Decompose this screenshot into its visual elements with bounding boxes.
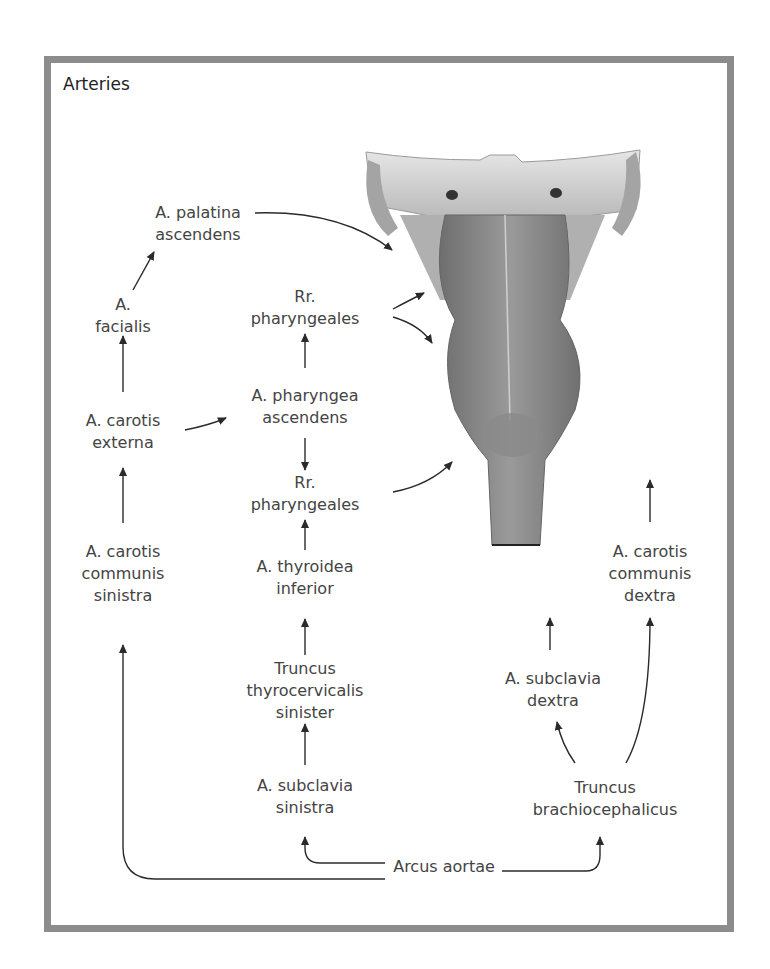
label-a-pharyngea-ascendens: A. pharyngea ascendens bbox=[252, 385, 359, 429]
label-rr-pharyngeales-lower: Rr. pharyngeales bbox=[251, 472, 360, 516]
arrow-palatina-to-pharynx bbox=[255, 213, 392, 250]
arrow-externa-to-pharyngea bbox=[185, 418, 226, 430]
label-line: sinistra bbox=[257, 797, 353, 819]
arrow-rr-upper-to-pharynx-a bbox=[393, 293, 424, 309]
arrow-brachio-to-subclavia-dex bbox=[557, 722, 575, 763]
label-line: facialis bbox=[95, 316, 151, 338]
label-line: A. carotis bbox=[609, 541, 692, 563]
label-a-subclavia-sinistra: A. subclavia sinistra bbox=[257, 775, 353, 819]
label-line: Truncus bbox=[247, 658, 364, 680]
arrow-rr-upper-to-pharynx-b bbox=[393, 317, 432, 343]
label-line: brachiocephalicus bbox=[533, 799, 678, 821]
label-line: Rr. bbox=[251, 472, 360, 494]
label-truncus-brachiocephalicus: Truncus brachiocephalicus bbox=[533, 777, 678, 821]
label-line: A. pharyngea bbox=[252, 385, 359, 407]
label-a-facialis: A. facialis bbox=[95, 294, 151, 338]
label-line: A. carotis bbox=[82, 541, 165, 563]
arrow-aortae-to-brachio bbox=[502, 837, 600, 871]
label-line: Arcus aortae bbox=[393, 856, 495, 878]
label-line: pharyngeales bbox=[251, 308, 360, 330]
label-a-carotis-communis-dextra: A. carotis communis dextra bbox=[609, 541, 692, 607]
label-line: A. carotis bbox=[86, 410, 161, 432]
label-line: sinister bbox=[247, 702, 364, 724]
label-line: pharyngeales bbox=[251, 494, 360, 516]
label-arcus-aortae: Arcus aortae bbox=[393, 856, 495, 878]
label-line: communis bbox=[609, 563, 692, 585]
arrow-facialis-to-palatina bbox=[133, 252, 154, 290]
arrow-brachio-to-carotis-dex bbox=[626, 618, 650, 763]
label-a-subclavia-dextra: A. subclavia dextra bbox=[505, 668, 601, 712]
label-line: A. thyroidea bbox=[257, 556, 354, 578]
label-line: sinistra bbox=[82, 585, 165, 607]
label-line: Truncus bbox=[533, 777, 678, 799]
label-a-palatina-ascendens: A. palatina ascendens bbox=[155, 202, 241, 246]
label-line: ascendens bbox=[252, 407, 359, 429]
label-a-thyroidea-inferior: A. thyroidea inferior bbox=[257, 556, 354, 600]
label-line: A. subclavia bbox=[505, 668, 601, 690]
label-line: A. subclavia bbox=[257, 775, 353, 797]
label-rr-pharyngeales-upper: Rr. pharyngeales bbox=[251, 286, 360, 330]
arrow-aortae-to-subclavia-sin bbox=[305, 837, 385, 863]
label-line: Rr. bbox=[251, 286, 360, 308]
label-line: thyrocervicalis bbox=[247, 680, 364, 702]
label-line: communis bbox=[82, 563, 165, 585]
label-a-carotis-externa: A. carotis externa bbox=[86, 410, 161, 454]
arrows-layer bbox=[0, 0, 770, 969]
arrow-rr-lower-to-pharynx bbox=[393, 462, 452, 492]
label-line: A. palatina bbox=[155, 202, 241, 224]
label-line: dextra bbox=[609, 585, 692, 607]
label-line: inferior bbox=[257, 578, 354, 600]
label-truncus-thyrocervicalis-sinister: Truncus thyrocervicalis sinister bbox=[247, 658, 364, 724]
label-line: A. bbox=[95, 294, 151, 316]
label-a-carotis-communis-sinistra: A. carotis communis sinistra bbox=[82, 541, 165, 607]
label-line: externa bbox=[86, 432, 161, 454]
label-line: dextra bbox=[505, 690, 601, 712]
label-line: ascendens bbox=[155, 224, 241, 246]
